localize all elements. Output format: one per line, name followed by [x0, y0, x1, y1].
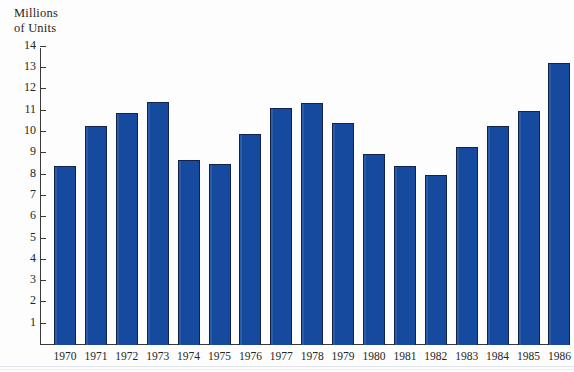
y-tick-2: 2	[40, 301, 46, 302]
y-tick-label: 4	[30, 251, 36, 265]
y-tick-11: 11	[40, 110, 46, 111]
bar-1986	[548, 63, 570, 345]
y-tick-3: 3	[40, 280, 46, 281]
y-tick-10: 10	[40, 131, 46, 132]
y-tick-label: 13	[24, 59, 36, 73]
y-axis-title-line-2: of Units	[14, 21, 56, 35]
x-axis-label-1986: 1986	[539, 350, 574, 363]
bar-1981	[394, 166, 416, 345]
bar-1985	[518, 111, 540, 345]
bottom-divider-secondary	[0, 369, 574, 370]
y-tick-label: 11	[24, 102, 36, 116]
y-tick-8: 8	[40, 174, 46, 175]
bar-1984	[487, 126, 509, 345]
y-axis-title-line-1: Millions	[14, 6, 58, 20]
y-tick-label: 14	[24, 38, 36, 52]
bar-1972	[116, 113, 138, 345]
y-tick-label: 1	[30, 315, 36, 329]
bar-chart-figure: Millions of Units 1234567891011121314 19…	[0, 0, 574, 372]
y-tick-7: 7	[40, 195, 46, 196]
bar-1982	[425, 175, 447, 345]
y-tick-5: 5	[40, 238, 46, 239]
bar-1979	[332, 123, 354, 345]
bar-1973	[147, 102, 169, 345]
y-tick-14: 14	[40, 46, 46, 47]
y-tick-label: 12	[24, 80, 36, 94]
bar-1975	[209, 164, 231, 345]
bar-1983	[456, 147, 478, 345]
bar-1978	[301, 103, 323, 345]
y-tick-label: 9	[30, 144, 36, 158]
y-tick-label: 6	[30, 208, 36, 222]
bar-1971	[85, 126, 107, 345]
y-axis-line	[40, 48, 41, 344]
bar-1980	[363, 154, 385, 345]
y-tick-4: 4	[40, 259, 46, 260]
y-tick-1: 1	[40, 323, 46, 324]
y-axis-title: Millions of Units	[14, 6, 58, 35]
y-tick-label: 5	[30, 230, 36, 244]
plot-area: 1234567891011121314 19701971197219731974…	[40, 44, 564, 345]
bar-1970	[54, 166, 76, 345]
y-tick-9: 9	[40, 152, 46, 153]
bar-1977	[270, 108, 292, 345]
bar-1974	[178, 160, 200, 345]
y-tick-label: 8	[30, 166, 36, 180]
y-tick-label: 7	[30, 187, 36, 201]
y-tick-label: 3	[30, 272, 36, 286]
bar-1976	[239, 134, 261, 345]
y-tick-13: 13	[40, 67, 46, 68]
y-tick-6: 6	[40, 216, 46, 217]
y-tick-label: 10	[24, 123, 36, 137]
y-tick-label: 2	[30, 293, 36, 307]
y-tick-12: 12	[40, 88, 46, 89]
bottom-divider	[0, 366, 574, 367]
